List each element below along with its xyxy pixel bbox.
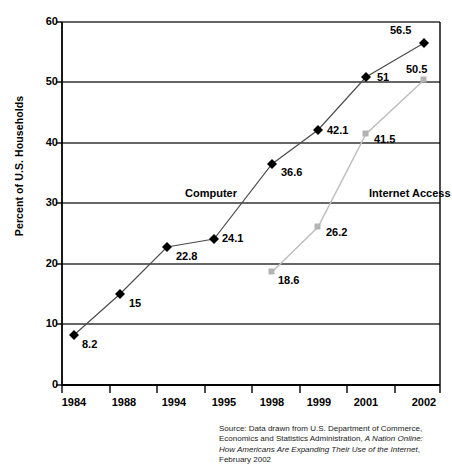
data-point-internet-2002 (421, 77, 427, 83)
data-point-computer-2002 (419, 38, 429, 48)
source-line-2: Economics and Statistics Administration,… (219, 434, 447, 444)
value-label-computer-1999: 42.1 (327, 124, 348, 136)
value-label-computer-1988: 15 (129, 297, 141, 309)
value-label-computer-1995: 24.1 (222, 232, 243, 244)
data-point-internet-2001 (363, 131, 369, 137)
data-point-internet-1998 (269, 269, 275, 275)
value-label-computer-2002: 56.5 (390, 24, 411, 36)
source-title-part-2: How Americans Are Expanding Their Use of… (219, 445, 418, 454)
value-label-computer-1984: 8.2 (82, 338, 97, 350)
value-label-internet-1999: 26.2 (326, 226, 347, 238)
source-line-2-text: Economics and Statistics Administration, (219, 434, 365, 443)
value-label-computer-2001: 51 (377, 71, 389, 83)
value-label-computer-1994: 22.8 (176, 250, 197, 262)
data-point-computer-1995 (209, 234, 219, 244)
x-axis-ticks (62, 385, 440, 393)
source-title-part-1: A Nation Online: (365, 434, 423, 443)
data-point-internet-1999 (315, 224, 321, 230)
source-note: Source: Data drawn from U.S. Department … (219, 424, 447, 464)
source-line-3: How Americans Are Expanding Their Use of… (219, 445, 447, 455)
source-line-1: Source: Data drawn from U.S. Department … (219, 424, 447, 434)
series-label-internet-access: Internet Access (369, 187, 451, 199)
data-point-computer-1998 (267, 159, 277, 169)
value-label-internet-2002: 50.5 (406, 63, 427, 75)
value-label-internet-1998: 18.6 (278, 274, 299, 286)
value-label-computer-1998: 36.6 (281, 166, 302, 178)
source-line-3-comma: , (418, 445, 420, 454)
value-label-internet-2001: 41.5 (374, 133, 395, 145)
series-label-computer: Computer (185, 187, 237, 199)
source-line-4: February 2002 (219, 455, 447, 464)
